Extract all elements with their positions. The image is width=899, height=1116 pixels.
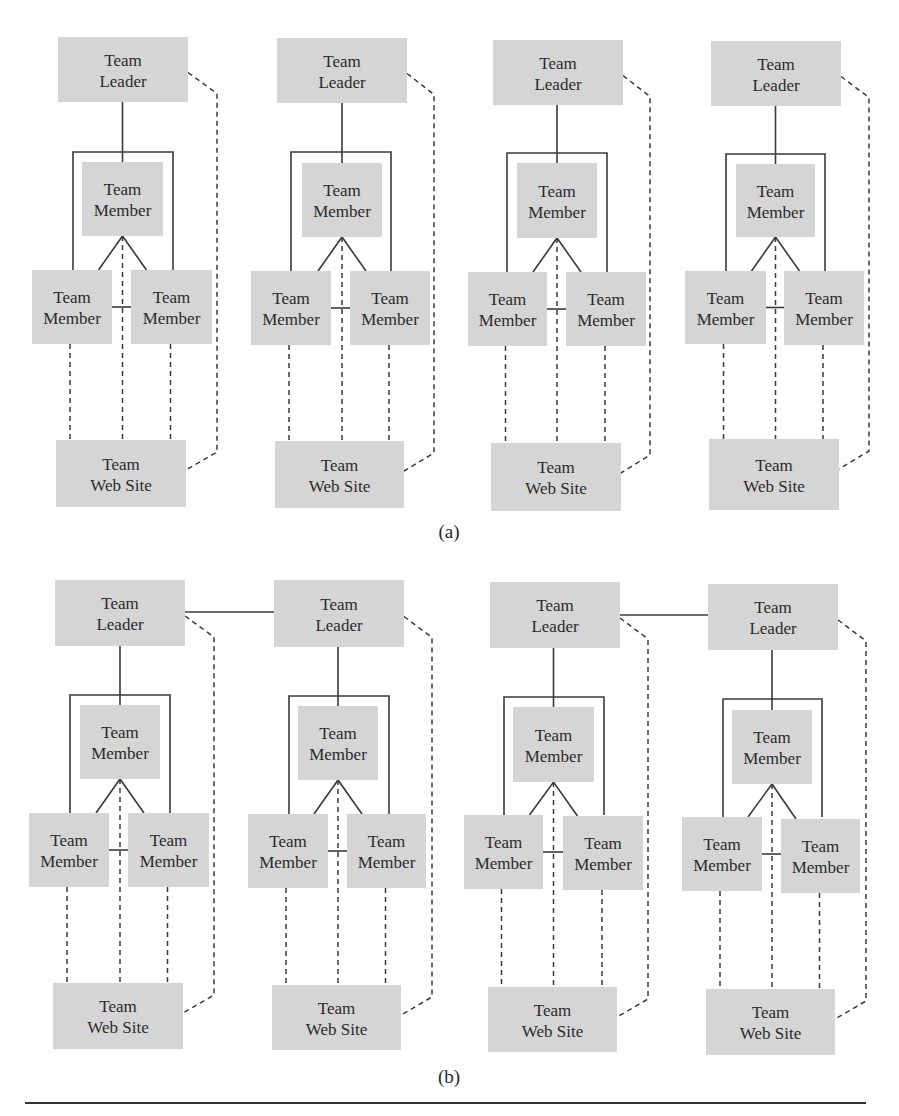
team-member-box-shape	[32, 270, 112, 344]
team-website-box-shape	[488, 987, 617, 1052]
team-leader-box-label-line: Team	[757, 55, 795, 74]
team-member-box-label-line: Team	[753, 728, 791, 747]
team-leader-box-label-line: Team	[104, 51, 142, 70]
team-member-box: TeamMember	[350, 271, 430, 345]
team-member-box-label-line: Member	[574, 855, 632, 874]
team-member-box-label-line: Team	[272, 289, 310, 308]
team-member-box: TeamMember	[682, 817, 762, 891]
team-member-box-label-line: Team	[802, 837, 840, 856]
team-website-box-label-line: Web Site	[306, 1020, 367, 1039]
team-leader-box-label-line: Leader	[315, 616, 363, 635]
team-leader-box: TeamLeader	[490, 582, 620, 648]
team-website-box-label-line: Web Site	[90, 476, 151, 495]
team-group-2: TeamLeaderTeamMemberTeamMemberTeamMember…	[251, 38, 434, 508]
team-member-box-label-line: Member	[309, 745, 367, 764]
panel-caption: (b)	[438, 1066, 460, 1088]
team-group-1: TeamLeaderTeamMemberTeamMemberTeamMember…	[29, 580, 214, 1049]
team-member-box-label-line: Team	[757, 182, 795, 201]
panel-a: TeamLeaderTeamMemberTeamMemberTeamMember…	[32, 37, 869, 543]
team-member-box-shape	[128, 813, 209, 887]
team-website-box: TeamWeb Site	[53, 983, 183, 1049]
team-member-box-label-line: Team	[101, 723, 139, 742]
team-member-box: TeamMember	[784, 271, 864, 345]
team-member-box-label-line: Member	[795, 310, 853, 329]
team-member-box-label-line: Member	[697, 310, 755, 329]
team-member-box: TeamMember	[82, 162, 163, 236]
team-member-box-shape	[80, 705, 160, 779]
team-leader-box-label-line: Leader	[531, 617, 579, 636]
team-member-box: TeamMember	[302, 163, 382, 237]
team-leader-box-shape	[274, 580, 404, 647]
team-member-box: TeamMember	[347, 814, 426, 888]
team-website-box-label-line: Web Site	[87, 1018, 148, 1037]
team-leader-box: TeamLeader	[493, 40, 623, 105]
team-member-box-label-line: Team	[53, 288, 91, 307]
team-member-box-label-line: Team	[153, 288, 191, 307]
team-leader-box: TeamLeader	[711, 41, 841, 106]
team-member-box-label-line: Team	[104, 180, 142, 199]
team-member-box-label-line: Team	[703, 835, 741, 854]
team-member-box-shape	[350, 271, 430, 345]
team-member-box: TeamMember	[29, 813, 109, 887]
team-member-box-shape	[248, 814, 328, 888]
team-website-box-shape	[706, 989, 835, 1055]
team-leader-box-label-line: Team	[101, 594, 139, 613]
team-website-box-label-line: Web Site	[525, 479, 586, 498]
team-member-box-shape	[513, 707, 594, 782]
team-member-box: TeamMember	[513, 707, 594, 782]
team-leader-box-shape	[493, 40, 623, 105]
team-member-box-label-line: Member	[43, 309, 101, 328]
team-member-box-shape	[566, 272, 646, 346]
team-leader-box: TeamLeader	[58, 37, 188, 102]
team-member-box-label-line: Member	[792, 858, 850, 877]
team-member-box-shape	[736, 164, 815, 237]
team-leader-box-shape	[277, 38, 407, 103]
team-member-box-shape	[468, 272, 547, 346]
team-member-box-shape	[251, 271, 331, 345]
team-member-box-shape	[732, 710, 812, 784]
team-website-box: TeamWeb Site	[56, 440, 186, 507]
team-member-box-shape	[682, 817, 762, 891]
team-member-box-label-line: Member	[259, 853, 317, 872]
team-member-box: TeamMember	[781, 819, 860, 893]
team-member-box-label-line: Team	[538, 182, 576, 201]
team-leader-box: TeamLeader	[708, 584, 838, 650]
team-website-box-shape	[272, 985, 401, 1050]
team-website-box-shape	[709, 439, 839, 510]
team-structure-diagram: TeamLeaderTeamMemberTeamMemberTeamMember…	[0, 0, 899, 1116]
team-leader-box-shape	[708, 584, 838, 650]
team-member-box: TeamMember	[131, 270, 212, 344]
team-leader-box-label-line: Leader	[534, 75, 582, 94]
team-member-box-label-line: Member	[361, 310, 419, 329]
team-leader-box-label-line: Leader	[749, 619, 797, 638]
team-website-box-label-line: Team	[537, 458, 575, 477]
panel-caption: (a)	[438, 521, 459, 543]
team-website-box-shape	[53, 983, 183, 1049]
team-member-box-shape	[685, 271, 766, 344]
team-member-box-label-line: Member	[313, 202, 371, 221]
team-leader-box-label-line: Leader	[752, 76, 800, 95]
team-member-box: TeamMember	[468, 272, 547, 346]
team-website-box: TeamWeb Site	[275, 441, 404, 508]
team-group-4: TeamLeaderTeamMemberTeamMemberTeamMember…	[685, 41, 869, 510]
team-website-box-label-line: Web Site	[743, 477, 804, 496]
team-website-box-label-line: Team	[318, 999, 356, 1018]
team-member-box-label-line: Team	[805, 289, 843, 308]
team-leader-box-shape	[711, 41, 841, 106]
team-member-box-label-line: Team	[489, 290, 527, 309]
team-website-box: TeamWeb Site	[272, 985, 401, 1050]
team-website-box-label-line: Team	[534, 1001, 572, 1020]
team-member-box-label-line: Member	[693, 856, 751, 875]
team-member-box-shape	[563, 816, 643, 890]
team-member-box-shape	[781, 819, 860, 893]
team-member-box-label-line: Member	[475, 854, 533, 873]
team-member-box-shape	[347, 814, 426, 888]
team-member-box-label-line: Member	[743, 749, 801, 768]
team-member-box-label-line: Team	[368, 832, 406, 851]
team-leader-box-label-line: Leader	[96, 615, 144, 634]
team-group-4: TeamLeaderTeamMemberTeamMemberTeamMember…	[682, 584, 866, 1055]
team-member-box-label-line: Team	[587, 290, 625, 309]
team-member-box-label-line: Member	[358, 853, 416, 872]
team-website-box-label-line: Team	[321, 456, 359, 475]
team-member-box: TeamMember	[128, 813, 209, 887]
